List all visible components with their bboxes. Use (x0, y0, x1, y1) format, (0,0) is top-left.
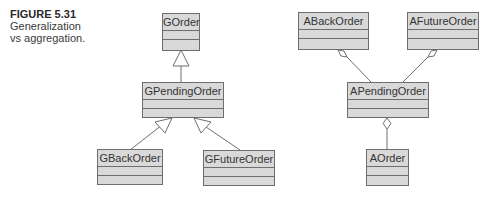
attributes-compartment (204, 168, 274, 177)
generalization-gback-to-gpending (130, 118, 172, 150)
class-gfutureorder[interactable]: GFutureOrder (203, 150, 275, 186)
attributes-compartment (348, 100, 428, 109)
attributes-compartment (367, 167, 408, 176)
operations-compartment (98, 176, 162, 184)
class-name: GPendingOrder (143, 83, 223, 100)
generalization-arrowhead-icon (173, 50, 189, 66)
class-abackorder[interactable]: ABackOrder (298, 12, 369, 50)
aggregation-apending-aorder (383, 118, 391, 149)
generalization-gpending-to-gorder (173, 50, 189, 82)
operations-compartment (299, 39, 368, 49)
attributes-compartment (299, 30, 368, 39)
class-name: GOrder (163, 14, 199, 31)
aggregation-afuture-apending (403, 50, 437, 82)
attributes-compartment (143, 100, 223, 109)
attributes-compartment (163, 31, 199, 40)
class-afutureorder[interactable]: AFutureOrder (407, 12, 479, 50)
class-gbackorder[interactable]: GBackOrder (97, 149, 163, 185)
aggregation-diamond-icon (338, 50, 347, 57)
attributes-compartment (408, 30, 478, 39)
generalization-gfuture-to-gpending (194, 118, 240, 150)
operations-compartment (204, 177, 274, 185)
operations-compartment (367, 176, 408, 185)
operations-compartment (143, 109, 223, 117)
aggregation-aback-apending (338, 50, 371, 82)
attributes-compartment (98, 167, 162, 176)
operations-compartment (408, 39, 478, 49)
class-name: GBackOrder (98, 150, 162, 167)
generalization-arrowhead-icon (194, 118, 211, 133)
aggregation-diamond-icon (383, 118, 391, 129)
class-name: AFutureOrder (408, 13, 478, 30)
aggregation-diamond-icon (428, 50, 437, 57)
class-aorder[interactable]: AOrder (366, 149, 409, 186)
class-gorder[interactable]: GOrder (162, 13, 200, 51)
class-apendingorder[interactable]: APendingOrder (347, 82, 429, 118)
generalization-arrowhead-icon (155, 118, 172, 133)
operations-compartment (348, 109, 428, 117)
class-name: APendingOrder (348, 83, 428, 100)
class-name: GFutureOrder (204, 151, 274, 168)
operations-compartment (163, 40, 199, 50)
class-name: AOrder (367, 150, 408, 167)
class-gpendingorder[interactable]: GPendingOrder (142, 82, 224, 118)
class-name: ABackOrder (299, 13, 368, 30)
